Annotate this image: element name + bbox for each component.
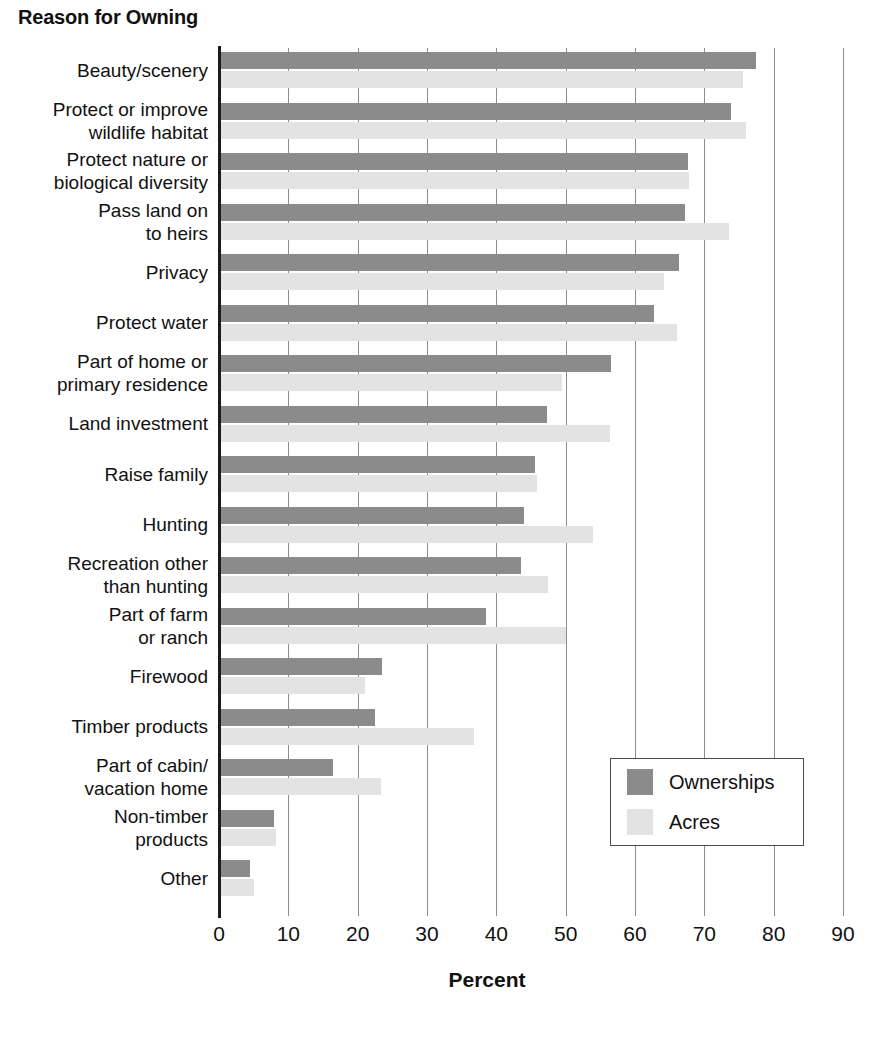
- bar-group: [219, 860, 843, 900]
- bar-group: [219, 204, 843, 244]
- bar-group: [219, 658, 843, 698]
- bar-ownerships: [219, 254, 679, 271]
- bar-acres: [219, 677, 365, 694]
- legend-label-ownerships: Ownerships: [669, 771, 775, 794]
- x-axis-ticks: 0102030405060708090: [0, 922, 882, 956]
- bar-group: [219, 254, 843, 294]
- x-tick-label-0: 0: [213, 922, 225, 946]
- category-label: Part of farmor ranch: [0, 603, 208, 649]
- x-tick-label-90: 90: [831, 922, 854, 946]
- bar-acres: [219, 576, 548, 593]
- bar-acres: [219, 778, 381, 795]
- legend-swatch-ownerships: [627, 769, 653, 795]
- category-label: Part of home orprimary residence: [0, 350, 208, 396]
- x-tick-label-70: 70: [693, 922, 716, 946]
- bar-group: [219, 355, 843, 395]
- category-label: Raise family: [0, 463, 208, 486]
- bar-acres: [219, 172, 689, 189]
- bar-ownerships: [219, 305, 654, 322]
- category-label: Pass land onto heirs: [0, 199, 208, 245]
- bar-acres: [219, 122, 746, 139]
- bar-ownerships: [219, 759, 333, 776]
- bar-acres: [219, 829, 276, 846]
- legend-swatch-acres: [627, 809, 653, 835]
- bar-acres: [219, 728, 474, 745]
- y-axis-line: [218, 46, 221, 918]
- bar-acres: [219, 425, 610, 442]
- category-label: Non-timberproducts: [0, 805, 208, 851]
- bar-group: [219, 507, 843, 547]
- legend-item-ownerships: Ownerships: [627, 769, 775, 795]
- bar-acres: [219, 71, 743, 88]
- bar-ownerships: [219, 456, 535, 473]
- bar-acres: [219, 324, 677, 341]
- bar-ownerships: [219, 507, 524, 524]
- x-tick-label-20: 20: [346, 922, 369, 946]
- x-tick-label-10: 10: [277, 922, 300, 946]
- x-axis-title: Percent: [0, 968, 882, 992]
- x-tick-label-40: 40: [485, 922, 508, 946]
- bar-acres: [219, 223, 729, 240]
- x-tick-label-60: 60: [623, 922, 646, 946]
- bar-ownerships: [219, 355, 611, 372]
- bar-acres: [219, 475, 537, 492]
- category-label: Timber products: [0, 715, 208, 738]
- x-tick-label-80: 80: [762, 922, 785, 946]
- bar-acres: [219, 627, 566, 644]
- bar-ownerships: [219, 103, 731, 120]
- category-label: Part of cabin/vacation home: [0, 754, 208, 800]
- category-label: Protect nature orbiological diversity: [0, 148, 208, 194]
- bar-ownerships: [219, 204, 685, 221]
- category-label: Land investment: [0, 412, 208, 435]
- bar-ownerships: [219, 658, 382, 675]
- category-label: Firewood: [0, 665, 208, 688]
- bar-ownerships: [219, 406, 547, 423]
- bar-group: [219, 709, 843, 749]
- bar-acres: [219, 374, 562, 391]
- category-label: Beauty/scenery: [0, 59, 208, 82]
- category-label: Other: [0, 867, 208, 890]
- bar-ownerships: [219, 860, 250, 877]
- chart-legend: Ownerships Acres: [610, 758, 804, 846]
- bar-ownerships: [219, 709, 375, 726]
- legend-item-acres: Acres: [627, 809, 720, 835]
- bar-ownerships: [219, 52, 756, 69]
- bar-group: [219, 103, 843, 143]
- chart-title: Reason for Owning: [18, 6, 198, 29]
- bar-ownerships: [219, 557, 521, 574]
- bar-group: [219, 153, 843, 193]
- bar-chart: Reason for Owning Beauty/sceneryProtect …: [0, 0, 882, 1046]
- category-label: Recreation otherthan hunting: [0, 552, 208, 598]
- bar-group: [219, 608, 843, 648]
- bar-ownerships: [219, 810, 274, 827]
- category-label: Privacy: [0, 261, 208, 284]
- bar-ownerships: [219, 608, 486, 625]
- bar-ownerships: [219, 153, 688, 170]
- bar-acres: [219, 273, 664, 290]
- bar-acres: [219, 526, 593, 543]
- gridline-90: [843, 48, 844, 916]
- category-label: Protect or improvewildlife habitat: [0, 98, 208, 144]
- x-tick-label-30: 30: [415, 922, 438, 946]
- legend-label-acres: Acres: [669, 811, 720, 834]
- bar-group: [219, 456, 843, 496]
- bar-group: [219, 305, 843, 345]
- bar-group: [219, 52, 843, 92]
- x-axis-title-text: Percent: [448, 968, 525, 992]
- bar-group: [219, 406, 843, 446]
- category-label: Hunting: [0, 513, 208, 536]
- bar-group: [219, 557, 843, 597]
- category-label: Protect water: [0, 311, 208, 334]
- x-tick-label-50: 50: [554, 922, 577, 946]
- bar-acres: [219, 879, 254, 896]
